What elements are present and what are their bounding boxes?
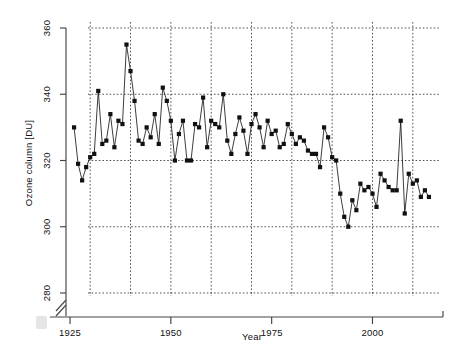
data-point xyxy=(382,178,386,182)
data-point xyxy=(282,142,286,146)
data-point xyxy=(88,155,92,159)
x-axis-title: Year xyxy=(242,331,262,342)
data-point xyxy=(189,158,193,162)
data-point xyxy=(229,152,233,156)
data-point xyxy=(225,139,229,143)
data-point xyxy=(249,122,253,126)
data-point xyxy=(149,135,153,139)
y-tick-label: 300 xyxy=(41,219,52,235)
data-point xyxy=(294,142,298,146)
x-axis-line xyxy=(50,311,443,317)
data-point xyxy=(96,89,100,93)
data-point xyxy=(197,125,201,129)
x-axis-tick-labels: 1925195019752000 xyxy=(59,327,383,338)
data-point xyxy=(241,129,245,133)
data-point xyxy=(145,125,149,129)
data-point xyxy=(370,192,374,196)
ozone-column-figure: 280300320340360 1925195019752000 Ozone c… xyxy=(0,0,454,358)
data-point xyxy=(233,132,237,136)
x-axis-ticks xyxy=(70,317,372,324)
data-point xyxy=(403,211,407,215)
data-point xyxy=(346,225,350,229)
data-point xyxy=(366,185,370,189)
data-point xyxy=(342,215,346,219)
data-point xyxy=(237,115,241,119)
y-tick-label: 360 xyxy=(41,20,52,36)
y-axis-break-icon xyxy=(56,300,66,316)
data-point xyxy=(253,112,257,116)
x-tick-label: 1925 xyxy=(59,327,81,338)
data-point xyxy=(302,139,306,143)
data-point xyxy=(104,139,108,143)
data-point xyxy=(132,99,136,103)
data-point xyxy=(177,132,181,136)
data-point xyxy=(350,198,354,202)
y-axis xyxy=(56,28,66,316)
data-point xyxy=(330,155,334,159)
data-point xyxy=(374,205,378,209)
data-point xyxy=(419,195,423,199)
data-point xyxy=(128,69,132,73)
x-tick-label: 1975 xyxy=(261,327,283,338)
data-point xyxy=(286,122,290,126)
data-point xyxy=(266,119,270,123)
data-point xyxy=(338,192,342,196)
x-tick-label: 2000 xyxy=(362,327,384,338)
data-point xyxy=(378,172,382,176)
x-axis xyxy=(50,311,443,324)
data-point xyxy=(318,165,322,169)
data-point xyxy=(157,142,161,146)
data-point xyxy=(415,178,419,182)
data-point xyxy=(124,42,128,46)
grid-lines-horizontal xyxy=(88,28,440,293)
data-point xyxy=(161,86,165,90)
y-tick-label: 340 xyxy=(41,86,52,102)
data-point xyxy=(141,142,145,146)
data-point xyxy=(108,112,112,116)
data-point xyxy=(221,92,225,96)
data-point xyxy=(209,119,213,123)
data-point xyxy=(290,132,294,136)
data-point xyxy=(298,135,302,139)
y-tick-label: 280 xyxy=(41,285,52,301)
data-point xyxy=(92,152,96,156)
data-point xyxy=(80,178,84,182)
data-point xyxy=(399,119,403,123)
grid-lines-vertical xyxy=(90,22,413,296)
data-point xyxy=(391,188,395,192)
data-point xyxy=(100,142,104,146)
data-point xyxy=(270,132,274,136)
data-point xyxy=(427,195,431,199)
y-axis-tick-labels: 280300320340360 xyxy=(41,20,52,301)
data-point xyxy=(181,119,185,123)
data-point xyxy=(217,125,221,129)
data-point xyxy=(314,152,318,156)
data-point xyxy=(153,112,157,116)
data-point xyxy=(185,158,189,162)
ozone-timeseries-chart: 280300320340360 1925195019752000 Ozone c… xyxy=(0,0,454,358)
data-point xyxy=(411,182,415,186)
x-tick-label: 1950 xyxy=(160,327,182,338)
y-axis-title: Ozone column [DU] xyxy=(23,120,34,206)
data-point xyxy=(334,158,338,162)
data-point xyxy=(193,122,197,126)
data-point xyxy=(278,145,282,149)
data-point xyxy=(169,119,173,123)
data-point xyxy=(245,152,249,156)
data-point xyxy=(165,99,169,103)
data-point xyxy=(76,162,80,166)
data-point xyxy=(84,165,88,169)
data-point xyxy=(201,95,205,99)
data-point xyxy=(274,129,278,133)
data-point xyxy=(310,152,314,156)
data-point xyxy=(326,135,330,139)
data-point xyxy=(322,125,326,129)
data-point xyxy=(173,158,177,162)
data-point xyxy=(306,148,310,152)
y-tick-label: 320 xyxy=(41,152,52,168)
data-point xyxy=(358,182,362,186)
data-point xyxy=(387,185,391,189)
data-point xyxy=(116,119,120,123)
data-point xyxy=(395,188,399,192)
data-point xyxy=(120,122,124,126)
